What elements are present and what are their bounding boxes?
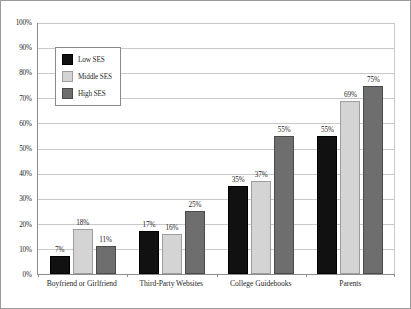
bar-group: 17%16%25% xyxy=(127,23,216,274)
legend-label: Low SES xyxy=(78,56,105,64)
x-axis-tick-mark xyxy=(217,274,218,277)
legend: Low SESMiddle SESHigh SES xyxy=(55,47,121,106)
y-axis-tick-label: 90% xyxy=(19,44,32,52)
x-axis-tick-mark xyxy=(38,274,39,277)
category-label: Boyfriend or Girlfriend xyxy=(37,279,127,288)
bar[interactable] xyxy=(317,136,337,274)
bar-item[interactable]: 75% xyxy=(363,23,383,274)
bar-value-label: 16% xyxy=(165,225,178,232)
legend-item[interactable]: Low SES xyxy=(62,54,115,65)
bar[interactable] xyxy=(274,136,294,274)
bar-value-label: 25% xyxy=(188,202,201,209)
bar-value-label: 69% xyxy=(344,92,357,99)
bar-value-label: 55% xyxy=(321,127,334,134)
bar[interactable] xyxy=(340,101,360,274)
legend-swatch-icon xyxy=(62,54,73,65)
bar-group: 35%37%55% xyxy=(217,23,306,274)
bar[interactable] xyxy=(96,246,116,274)
legend-item[interactable]: Middle SES xyxy=(62,71,115,82)
bar-value-label: 18% xyxy=(76,220,89,227)
y-axis-tick-label: 0% xyxy=(23,271,32,279)
y-axis-tick-label: 10% xyxy=(19,246,32,254)
bar[interactable] xyxy=(139,231,159,274)
legend-label: High SES xyxy=(78,90,106,98)
x-axis-tick-mark xyxy=(306,274,307,277)
bar-value-label: 17% xyxy=(142,222,155,229)
y-axis-tick-label: 20% xyxy=(19,221,32,229)
bar-chart-figure: 100%90%80%70%60%50%40%30%20%10%0% 7%18%1… xyxy=(0,0,411,309)
bar-item[interactable]: 16% xyxy=(162,23,182,274)
bar-item[interactable]: 35% xyxy=(228,23,248,274)
legend-swatch-icon xyxy=(62,88,73,99)
bar-value-label: 11% xyxy=(99,237,112,244)
bar-value-label: 37% xyxy=(255,172,268,179)
bar-value-label: 35% xyxy=(232,177,245,184)
y-axis-tick-label: 50% xyxy=(19,145,32,153)
bar-item[interactable]: 69% xyxy=(340,23,360,274)
category-label: College Guidebooks xyxy=(216,279,306,288)
bar[interactable] xyxy=(185,211,205,274)
bar[interactable] xyxy=(228,186,248,274)
y-axis-tick-label: 80% xyxy=(19,69,32,77)
bar-value-label: 75% xyxy=(367,77,380,84)
bar[interactable] xyxy=(251,181,271,274)
bar-value-label: 55% xyxy=(278,127,291,134)
bar-item[interactable]: 37% xyxy=(251,23,271,274)
y-axis-tick-label: 30% xyxy=(19,195,32,203)
legend-item[interactable]: High SES xyxy=(62,88,115,99)
y-axis-tick-label: 70% xyxy=(19,95,32,103)
bar-item[interactable]: 55% xyxy=(274,23,294,274)
bar[interactable] xyxy=(73,229,93,274)
category-label: Parents xyxy=(306,279,396,288)
bar[interactable] xyxy=(50,256,70,274)
y-axis-tick-label: 40% xyxy=(19,170,32,178)
bar-group: 55%69%75% xyxy=(306,23,395,274)
category-label: Third-Party Websites xyxy=(127,279,217,288)
legend-label: Middle SES xyxy=(78,73,112,81)
y-axis-tick-label: 100% xyxy=(16,19,32,27)
bar-item[interactable]: 17% xyxy=(139,23,159,274)
bar[interactable] xyxy=(162,234,182,274)
y-axis: 100%90%80%70%60%50%40%30%20%10%0% xyxy=(1,23,35,275)
x-axis-tick-mark xyxy=(127,274,128,277)
x-axis-tick-mark xyxy=(394,274,395,277)
legend-swatch-icon xyxy=(62,71,73,82)
bar-value-label: 7% xyxy=(55,247,64,254)
bar-item[interactable]: 25% xyxy=(185,23,205,274)
y-axis-tick-label: 60% xyxy=(19,120,32,128)
bar-item[interactable]: 55% xyxy=(317,23,337,274)
bar[interactable] xyxy=(363,86,383,274)
x-axis-category-labels: Boyfriend or GirlfriendThird-Party Websi… xyxy=(37,279,395,288)
